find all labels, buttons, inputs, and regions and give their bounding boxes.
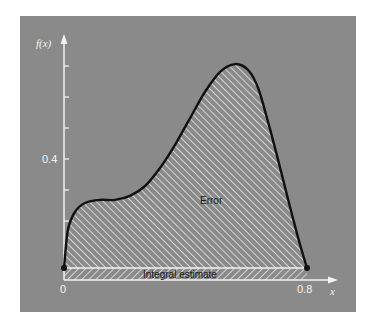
endpoint-left [61,265,67,271]
integral-estimate-label: Integral estimate [143,269,217,280]
endpoint-right [304,265,310,271]
x-tick-label-0.8: 0.8 [297,283,312,295]
error-label: Error [200,195,223,206]
x-tick-label-0: 0 [60,283,66,295]
x-axis-title: x [329,285,335,297]
y-tick-label-0.4: 0.4 [42,153,57,165]
y-axis-title: f(x) [36,37,52,50]
chart: f(x) 0.4 0 0.8 x Error Integral estimate [0,0,375,332]
